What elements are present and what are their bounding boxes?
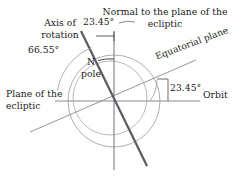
angle-arc-equator-orbit (150, 80, 157, 101)
label-orbit: Orbit (203, 90, 228, 100)
label-axis-of-rotation: Axis of rotation (32, 17, 88, 40)
label-normal-to-ecliptic: Normal to the plane of the ecliptic (100, 6, 230, 29)
label-angle-axis-to-normal: 23.45° (83, 17, 114, 27)
axial-tilt-diagram: Normal to the plane of the ecliptic Axis… (0, 0, 243, 179)
label-angle-equator-to-orbit: 23.45° (170, 83, 201, 93)
label-north-pole: N pole (76, 56, 106, 79)
label-angle-axis-to-ecliptic: 66.55° (28, 45, 59, 55)
label-plane-of-ecliptic: Plane of the ecliptic (6, 88, 68, 111)
